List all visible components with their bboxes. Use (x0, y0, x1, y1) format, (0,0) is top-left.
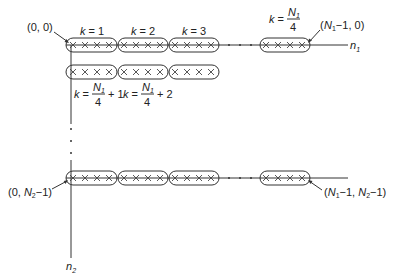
svg-text:k =: k = (74, 88, 89, 100)
svg-text:+ 1: + 1 (108, 88, 124, 100)
n2-axis-label: n2 (66, 260, 76, 274)
svg-text:(0, 0): (0, 0) (27, 21, 53, 33)
svg-text:(: ( (320, 19, 324, 31)
row-2-blocks (66, 65, 219, 79)
block-row2-3 (169, 65, 219, 79)
svg-text:+ 2: + 2 (157, 88, 173, 100)
svg-text:(0, N2−1): (0, N2−1) (8, 186, 52, 199)
label-k3: k = 3 (182, 25, 206, 37)
corner-bottom-left: (0, N2−1) (8, 180, 68, 199)
label-k-last: k = N1 4 (269, 6, 300, 33)
svg-text:4: 4 (144, 96, 150, 108)
label-row2-k1: k = N1 4 + 1 (74, 81, 124, 108)
svg-text:4: 4 (95, 96, 101, 108)
label-k1: kk = 1 = 1 (80, 25, 104, 37)
svg-text:k =: k = (269, 13, 284, 25)
label-k2: k = 2 (131, 25, 155, 37)
block-row2-2 (118, 65, 168, 79)
svg-text:N1: N1 (142, 81, 154, 94)
corner-bottom-right: (N1−1, N2−1) (308, 180, 386, 199)
label-row2-k2: k = N1 4 + 2 (123, 81, 173, 108)
svg-text:(N1−1, N2−1): (N1−1, N2−1) (324, 186, 386, 199)
block-partition-diagram: n1 n2 (0, 0, 398, 279)
svg-text:4: 4 (290, 21, 296, 33)
svg-text:k =: k = (123, 88, 138, 100)
svg-text:N1−1, 0): N1−1, 0) (324, 19, 364, 32)
n1-axis-label: n1 (350, 39, 360, 53)
block-row2-1 (66, 65, 117, 79)
svg-text:N1: N1 (288, 6, 300, 19)
svg-text:N1: N1 (93, 81, 105, 94)
corner-top-left: (0, 0) (27, 21, 69, 43)
